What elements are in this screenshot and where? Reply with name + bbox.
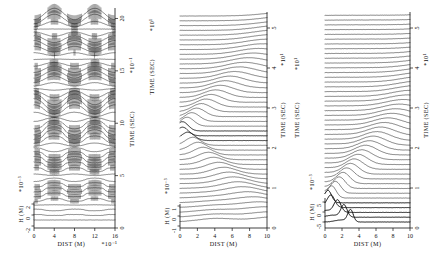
panel-c-trace bbox=[325, 24, 410, 25]
panel-a-trace bbox=[34, 198, 115, 201]
panel-b-trace bbox=[180, 35, 267, 40]
panel-c: 0246810DIST (M)-505H (M)*10⁻³012345TIME … bbox=[293, 0, 438, 265]
panel-b-xticklabel: 8 bbox=[248, 233, 251, 239]
panel-c-yticklabel: 5 bbox=[316, 204, 322, 207]
panel-c-yticklabel: 0 bbox=[316, 214, 322, 217]
panel-a-hatch bbox=[35, 197, 114, 204]
panel-a-trace bbox=[34, 66, 115, 73]
panel-a-trace bbox=[34, 205, 115, 206]
panel-a-hatch bbox=[35, 148, 114, 161]
panel-b-trace bbox=[180, 67, 267, 74]
panel-b-trace bbox=[180, 22, 267, 26]
panel-a-xticklabel: 8 bbox=[73, 233, 76, 239]
panel-a-trace bbox=[34, 62, 115, 66]
panel-c-timeticklabel: 4 bbox=[414, 67, 420, 70]
panel-b-y-exponent: *10⁻³ bbox=[163, 178, 170, 194]
panel-a-trace bbox=[34, 8, 115, 20]
panel-a-trace bbox=[34, 143, 115, 146]
panel-c-trace bbox=[325, 118, 410, 125]
panel-b-timeticklabel: 2 bbox=[271, 147, 277, 150]
panel-a-hatch bbox=[35, 4, 114, 23]
panel-c-trace bbox=[325, 205, 410, 218]
panel-a-trace bbox=[34, 209, 115, 211]
panel-b-time-exponent: *10¹ bbox=[279, 53, 286, 66]
panel-b-trace bbox=[180, 90, 267, 98]
panel-c-xticklabel: 10 bbox=[407, 233, 413, 239]
panel-c-trace bbox=[325, 209, 410, 222]
panel-b-trace bbox=[180, 182, 267, 189]
panel-c-xticklabel: 2 bbox=[341, 233, 344, 239]
panel-b-labels: 0246810DIST (M)-101H (M)*10⁻³012345TIME … bbox=[148, 19, 287, 248]
panel-c-left-time-label: TIME (SEC) bbox=[293, 102, 301, 138]
panel-a-time-exponent: *10⁻¹ bbox=[128, 57, 135, 73]
panel-a-trace bbox=[34, 83, 115, 87]
panel-c-traces bbox=[325, 15, 410, 222]
panel-b-trace bbox=[180, 62, 267, 68]
panel-a-xlabel: DIST (M) bbox=[57, 240, 85, 248]
panel-a-trace bbox=[34, 117, 115, 121]
panel-c-xticklabel: 6 bbox=[375, 233, 378, 239]
panel-a-trace bbox=[34, 14, 115, 24]
panel-a-hatch bbox=[35, 10, 114, 27]
panel-c-xticklabel: 8 bbox=[392, 233, 395, 239]
panel-c-trace bbox=[325, 33, 410, 34]
panel-c-timeticklabel: 1 bbox=[414, 187, 420, 190]
figure-root: 0481216DIST (M)*10⁻¹-202H (M)*10⁻³051015… bbox=[0, 0, 438, 265]
panel-a-hatch bbox=[35, 32, 114, 46]
panel-b-trace bbox=[180, 18, 267, 21]
panel-a-trace bbox=[34, 112, 115, 117]
panel-c-xlabel: DIST (M) bbox=[354, 240, 382, 248]
panel-a-timeticklabel: 20 bbox=[119, 15, 125, 21]
panel-b-left-time-label: TIME (SEC) bbox=[148, 59, 156, 95]
panel-b-trace bbox=[180, 13, 267, 16]
panel-a-y-exponent: *10⁻³ bbox=[17, 176, 24, 192]
panel-b-trace bbox=[180, 104, 267, 112]
panel-a-trace bbox=[34, 76, 115, 83]
panel-a-time-label: TIME (SEC) bbox=[128, 111, 136, 147]
panel-c-timeticklabel: 0 bbox=[414, 227, 420, 230]
panel-c-trace bbox=[325, 186, 410, 198]
panel-c-trace bbox=[325, 38, 410, 39]
panel-c-trace bbox=[325, 15, 410, 16]
panel-a-hatch bbox=[35, 126, 114, 143]
panel-c-trace bbox=[325, 145, 410, 155]
panel-a-trace bbox=[34, 88, 115, 90]
panel-b-timeticklabel: 5 bbox=[271, 27, 277, 30]
panel-a-trace bbox=[34, 178, 115, 182]
panel-c-labels: 0246810DIST (M)-505H (M)*10⁻³012345TIME … bbox=[293, 27, 430, 249]
panel-c-y-exponent: *10⁻³ bbox=[308, 174, 315, 190]
panel-a-trace bbox=[34, 59, 115, 60]
panel-c-trace bbox=[325, 159, 410, 170]
panel-c-trace bbox=[325, 195, 410, 208]
panel-c-trace bbox=[325, 47, 410, 49]
panel-c-trace bbox=[325, 181, 410, 193]
panel-b-trace bbox=[180, 167, 267, 174]
panel-a-trace bbox=[34, 174, 115, 176]
panel-b-timeticklabel: 0 bbox=[271, 227, 277, 230]
panel-a-yticklabel: 2 bbox=[25, 206, 31, 209]
panel-c-timeticklabel: 2 bbox=[414, 147, 420, 150]
panel-b-xlabel: DIST (M) bbox=[210, 240, 238, 248]
panel-a-trace bbox=[34, 99, 115, 111]
panel-a-yticklabel: -2 bbox=[25, 228, 31, 233]
panel-a-trace bbox=[34, 188, 115, 192]
panel-a-ylabel: H (M) bbox=[17, 205, 25, 222]
panel-b-trace bbox=[180, 53, 267, 59]
panel-a-trace bbox=[34, 36, 115, 43]
panel-c-xticklabel: 0 bbox=[324, 233, 327, 239]
panel-a-timeticklabel: 5 bbox=[119, 174, 125, 177]
panel-a-trace bbox=[34, 70, 115, 78]
panel-b: 0246810DIST (M)-101H (M)*10⁻³012345TIME … bbox=[148, 0, 293, 265]
panel-a-hatch bbox=[55, 50, 95, 58]
panel-a-timeticklabel: 0 bbox=[119, 227, 125, 230]
panel-c-time-label: TIME (SEC) bbox=[422, 102, 430, 138]
panel-a-trace bbox=[34, 53, 115, 56]
panel-a-yticklabel: 0 bbox=[25, 217, 31, 220]
panel-c-trace bbox=[325, 190, 410, 203]
panel-a-plot: 0481216DIST (M)*10⁻¹-202H (M)*10⁻³051015… bbox=[0, 0, 148, 265]
panel-b-trace bbox=[180, 117, 267, 126]
panel-b-trace bbox=[180, 71, 267, 78]
panel-c-plot: 0246810DIST (M)-505H (M)*10⁻³012345TIME … bbox=[293, 0, 438, 265]
panel-b-yticklabel: -1 bbox=[171, 228, 177, 233]
panel-b-timeticklabel: 4 bbox=[271, 67, 277, 70]
